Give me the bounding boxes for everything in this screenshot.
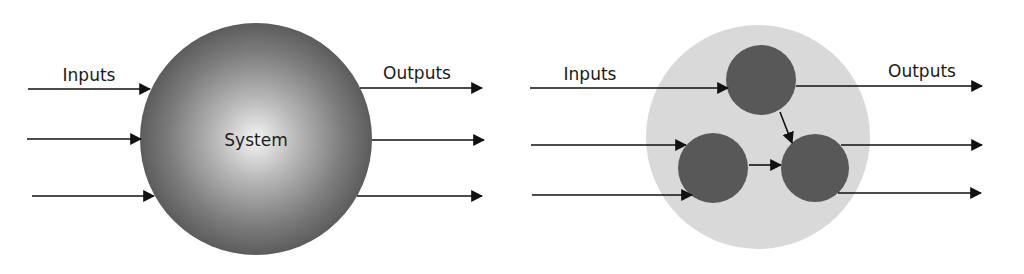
system-label: System: [224, 130, 287, 150]
right-diagram: Inputs Outputs: [530, 25, 982, 249]
inputs-label: Inputs: [564, 64, 617, 84]
diagram-canvas: System Inputs Outputs Inputs Outputs: [0, 0, 1024, 274]
subsystem-bottom-left: [678, 133, 748, 203]
outputs-label: Outputs: [888, 61, 956, 81]
inputs-label: Inputs: [63, 65, 116, 85]
outputs-label: Outputs: [383, 63, 451, 83]
left-diagram: System Inputs Outputs: [27, 23, 484, 255]
subsystem-top: [726, 45, 796, 115]
subsystem-bottom-right: [781, 134, 849, 202]
